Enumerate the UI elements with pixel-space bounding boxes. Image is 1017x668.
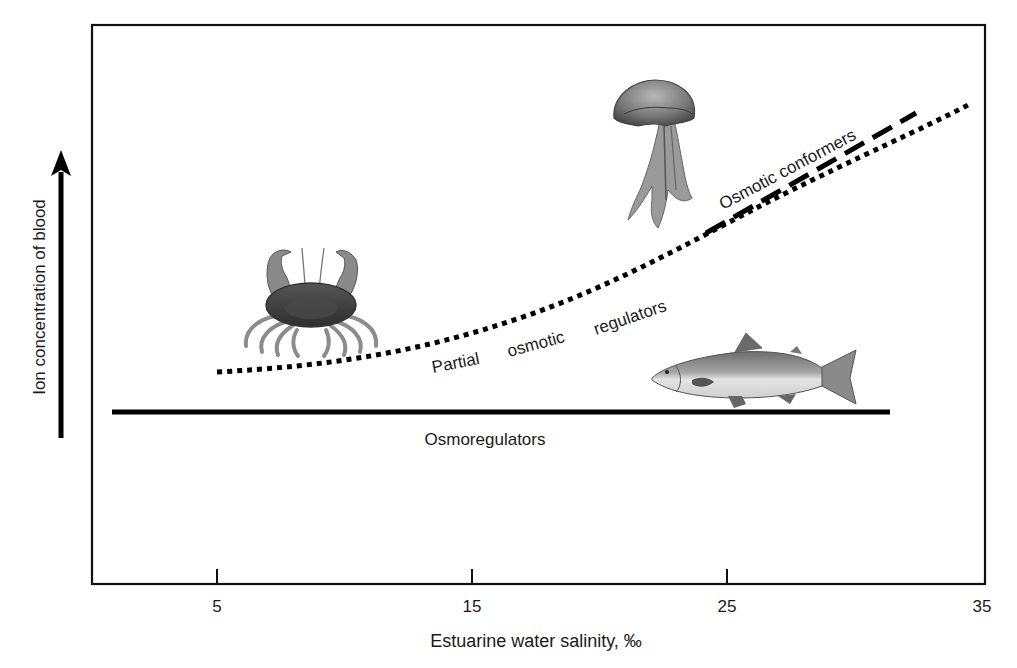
osmotic-conformers-label: Osmotic conformers: [716, 125, 859, 213]
fish-illustration: [652, 333, 856, 408]
partial-label-word-1: Partial: [430, 349, 481, 377]
osmoregulation-diagram: 5 15 25 35 Estuarine water salinity, ‰ I…: [0, 0, 1017, 668]
plot-frame: [92, 25, 985, 584]
jellyfish-illustration: [614, 80, 695, 228]
y-axis-arrow: [51, 150, 71, 438]
osmotic-conformers-line: [706, 113, 916, 233]
x-tick-35: 35: [973, 597, 992, 616]
x-tick-25: 25: [718, 597, 737, 616]
crab-illustration: [246, 248, 376, 356]
partial-label-word-2: osmotic: [505, 327, 567, 361]
osmoregulators-label: Osmoregulators: [425, 430, 546, 449]
x-axis-tick-labels: 5 15 25 35: [212, 597, 991, 616]
y-axis-label: Ion concentration of blood: [30, 199, 49, 395]
x-axis-label: Estuarine water salinity, ‰: [430, 631, 642, 651]
x-tick-5: 5: [212, 597, 221, 616]
x-axis-ticks: [217, 569, 727, 584]
x-tick-15: 15: [463, 597, 482, 616]
partial-label-word-3: regulators: [591, 296, 669, 339]
